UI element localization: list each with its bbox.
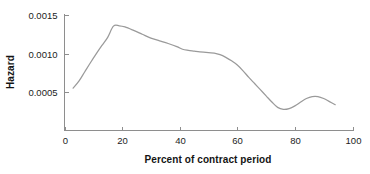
x-tick-label: 20 [117,135,128,146]
x-axis-tick-marks [66,127,354,131]
y-axis-title: Hazard [5,55,16,89]
y-axis-tick-labels: 0.00050.00100.0015 [28,10,57,98]
x-axis-tick-labels: 020406080100 [63,135,362,146]
y-tick-label: 0.0015 [28,10,57,21]
x-tick-label: 100 [346,135,362,146]
x-axis-title: Percent of contract period [144,154,271,165]
hazard-curve [73,25,335,109]
y-tick-label: 0.0005 [28,87,57,98]
x-tick-label: 0 [63,135,68,146]
chart-canvas: 0.00050.00100.0015 020406080100 Hazard P… [0,0,370,174]
x-tick-label: 40 [175,135,186,146]
x-tick-label: 80 [290,135,301,146]
hazard-chart: 0.00050.00100.0015 020406080100 Hazard P… [0,0,370,174]
y-tick-label: 0.0010 [28,49,57,60]
x-tick-label: 60 [232,135,243,146]
y-axis-tick-marks [65,16,69,93]
